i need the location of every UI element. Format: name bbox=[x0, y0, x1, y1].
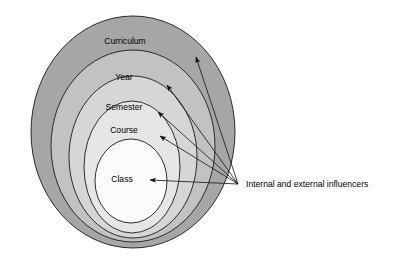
ring-label-year: Year bbox=[115, 72, 133, 82]
ring-label-course: Course bbox=[110, 125, 138, 135]
ring-label-semester: Semester bbox=[106, 102, 143, 112]
ring-label-curriculum: Curriculum bbox=[104, 36, 146, 46]
diagram-canvas: Curriculum Year Semester Course Class In… bbox=[0, 0, 410, 260]
callout-label-influencers: Internal and external influencers bbox=[246, 179, 368, 189]
concentric-circles-diagram: Curriculum Year Semester Course Class In… bbox=[0, 0, 410, 260]
ring-label-class: Class bbox=[111, 174, 133, 184]
